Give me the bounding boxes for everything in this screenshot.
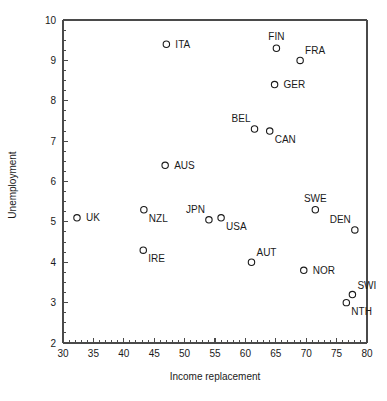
data-point-marker — [162, 162, 168, 168]
scatter-plot-figure: 30354045505560657075802345678910 UKIRENZ… — [0, 0, 387, 401]
data-point-marker — [301, 267, 307, 273]
x-tick-label: 75 — [331, 348, 343, 359]
data-point-marker — [343, 299, 349, 305]
x-tick-label: 60 — [240, 348, 252, 359]
y-tick-label: 5 — [50, 216, 56, 227]
data-point-label: CAN — [275, 134, 296, 145]
x-tick-label: 80 — [361, 348, 373, 359]
y-tick-label: 6 — [50, 176, 56, 187]
data-point-label: NZL — [149, 213, 168, 224]
data-point-label: AUS — [174, 160, 195, 171]
axis-ticks — [63, 20, 367, 343]
data-point-marker — [352, 227, 358, 233]
data-point-marker — [74, 215, 80, 221]
axis-tick-labels: 30354045505560657075802345678910 — [45, 15, 373, 360]
x-tick-label: 45 — [149, 348, 161, 359]
x-tick-label: 30 — [57, 348, 69, 359]
data-point-marker — [140, 247, 146, 253]
x-tick-label: 55 — [209, 348, 221, 359]
y-tick-label: 2 — [50, 338, 56, 349]
data-point-marker — [273, 45, 279, 51]
x-tick-label: 65 — [270, 348, 282, 359]
y-tick-label: 9 — [50, 55, 56, 66]
data-point-labels: UKIRENZLAUSITAJPNUSAAUTBELCANGERFINFRANO… — [86, 31, 376, 316]
x-tick-label: 70 — [301, 348, 313, 359]
x-tick-label: 35 — [88, 348, 100, 359]
data-point-label: FRA — [305, 45, 325, 56]
y-tick-label: 4 — [50, 257, 56, 268]
data-point-label: ITA — [175, 39, 190, 50]
data-point-label: IRE — [148, 253, 165, 264]
data-point-label: SWE — [304, 193, 327, 204]
data-point-marker — [218, 215, 224, 221]
data-point-label: NTH — [351, 306, 372, 317]
data-point-marker — [206, 217, 212, 223]
x-axis-title: Income replacement — [170, 371, 261, 382]
data-point-label: GER — [284, 79, 306, 90]
data-point-label: NOR — [313, 265, 335, 276]
x-tick-label: 50 — [179, 348, 191, 359]
data-point-label: SWI — [357, 280, 376, 291]
plot-axes — [63, 20, 367, 343]
data-point-marker — [312, 207, 318, 213]
data-point-label: AUT — [256, 247, 276, 258]
data-point-label: UK — [86, 212, 100, 223]
data-point-marker — [163, 41, 169, 47]
y-tick-label: 10 — [45, 15, 57, 26]
data-point-label: BEL — [232, 113, 251, 124]
data-point-marker — [141, 207, 147, 213]
y-tick-label: 7 — [50, 136, 56, 147]
data-point-label: FIN — [268, 31, 284, 42]
y-axis-title: Unemployment — [7, 151, 18, 218]
data-point-label: DEN — [330, 214, 351, 225]
scatter-plot-canvas: 30354045505560657075802345678910 UKIRENZ… — [0, 0, 387, 401]
data-point-marker — [267, 128, 273, 134]
data-point-marker — [271, 81, 277, 87]
y-tick-label: 3 — [50, 297, 56, 308]
data-point-label: USA — [226, 221, 247, 232]
data-point-marker — [248, 259, 254, 265]
data-point-label: JPN — [186, 204, 205, 215]
data-point-marker — [251, 126, 257, 132]
y-tick-label: 8 — [50, 95, 56, 106]
x-tick-label: 40 — [118, 348, 130, 359]
data-point-marker — [349, 291, 355, 297]
data-point-marker — [297, 57, 303, 63]
